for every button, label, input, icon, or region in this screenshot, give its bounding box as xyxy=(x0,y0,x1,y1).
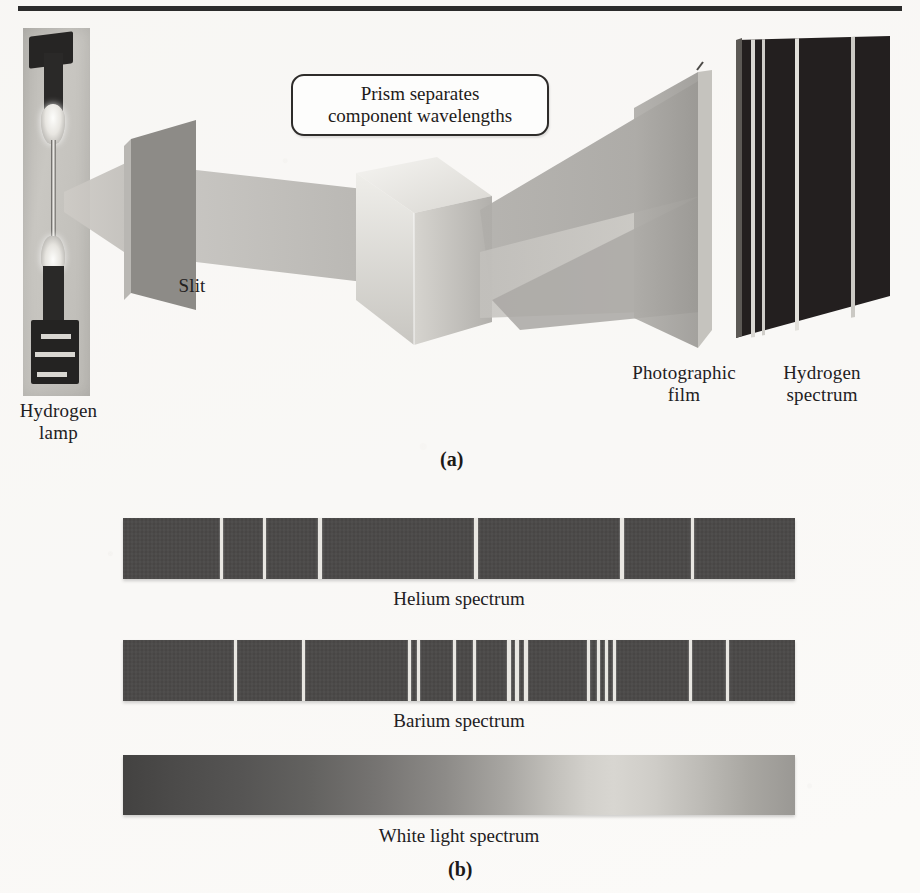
spectral-line xyxy=(524,640,528,701)
spectral-line xyxy=(507,640,511,701)
h-spectral-line xyxy=(762,39,765,335)
spectral-line xyxy=(691,518,694,579)
caption-white-light-spectrum: White light spectrum xyxy=(123,825,795,847)
spectral-line xyxy=(587,640,590,701)
spectral-line xyxy=(689,640,692,701)
spectral-line xyxy=(417,640,420,701)
h-spectral-line xyxy=(751,40,755,338)
barium-spectrum-band xyxy=(123,640,795,701)
label-slit: Slit xyxy=(152,275,232,297)
spectral-line xyxy=(605,640,608,701)
spectral-line xyxy=(302,640,305,701)
panel-a: Prism separates component wavelengths Hy… xyxy=(0,0,920,480)
spectral-line xyxy=(234,640,237,701)
h-spectral-line xyxy=(795,38,799,330)
spectral-line xyxy=(726,640,729,701)
spectral-line xyxy=(597,640,600,701)
optical-bench-diagram xyxy=(0,0,920,480)
panel-a-letter: (a) xyxy=(440,448,463,471)
prism-callout-text: Prism separates component wavelengths xyxy=(328,83,512,127)
label-hydrogen-spectrum: Hydrogen spectrum xyxy=(762,362,882,405)
panel-b-letter: (b) xyxy=(448,858,472,881)
spectral-line xyxy=(473,640,476,701)
h-spectral-line xyxy=(851,37,855,318)
hydrogen-spectrum-plate xyxy=(736,36,890,338)
film-top-marker xyxy=(697,62,703,70)
spectral-line xyxy=(613,640,616,701)
spectral-line xyxy=(263,518,266,579)
label-hydrogen-lamp: Hydrogen lamp xyxy=(6,400,111,443)
photographic-film-face xyxy=(634,72,698,348)
label-photographic-film: Photographic film xyxy=(620,362,748,405)
caption-barium-spectrum: Barium spectrum xyxy=(123,710,795,732)
spectral-line xyxy=(318,518,322,579)
helium-spectrum-band xyxy=(123,518,795,579)
photographic-film-plate xyxy=(698,70,712,348)
white-light-spectrum-band xyxy=(123,755,795,815)
spectral-line xyxy=(453,640,456,701)
spectral-line xyxy=(408,640,411,701)
beam-slit-to-prism xyxy=(196,170,372,283)
spectral-line xyxy=(620,518,624,579)
figure-root: Prism separates component wavelengths Hy… xyxy=(0,0,920,893)
slit-plate-edge xyxy=(124,139,131,300)
spectral-line xyxy=(515,640,519,701)
caption-helium-spectrum: Helium spectrum xyxy=(123,588,795,610)
spectral-line xyxy=(220,518,223,579)
spectral-line xyxy=(474,518,478,579)
prism-callout-box: Prism separates component wavelengths xyxy=(291,74,549,136)
panel-b: Helium spectrum Barium spectrum White li… xyxy=(0,480,920,893)
